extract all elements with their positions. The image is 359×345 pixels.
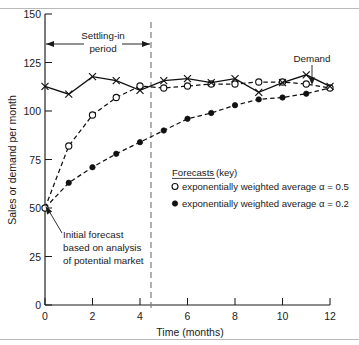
settling-in-annotation: Settling-in period: [46, 30, 150, 54]
settling-arrowhead-right-icon: [142, 41, 150, 47]
data-point: [280, 95, 285, 100]
y-tick-label-125: 125: [23, 57, 41, 69]
legend-filled-circle-icon: [172, 201, 177, 206]
data-point: [66, 180, 71, 185]
data-point: [232, 81, 238, 87]
data-point: [232, 103, 237, 108]
x-axis-ticks: 0 2 4 6 8 10 12: [42, 298, 336, 322]
data-point: [184, 83, 190, 89]
initial-forecast-label-line1: Initial forecast: [63, 229, 124, 240]
demand-callout-label: Demand: [293, 53, 330, 64]
x-tick-label-2: 2: [90, 310, 96, 322]
data-point: [89, 112, 95, 118]
x-axis-title: Time (months): [156, 326, 223, 338]
initial-forecast-arrowhead-icon: [46, 206, 53, 215]
data-point: [114, 151, 119, 156]
data-point: [90, 165, 95, 170]
y-tick-label-50: 50: [29, 202, 41, 214]
legend-heading-suffix: (key): [216, 167, 237, 178]
data-point: [209, 110, 214, 115]
x-tick-label-4: 4: [137, 310, 143, 322]
y-tick-label-150: 150: [23, 8, 41, 20]
initial-forecast-label-line2: based on analysis: [63, 242, 142, 253]
y-axis-title: Sales or demand per month: [6, 95, 18, 225]
data-point: [256, 97, 261, 102]
y-tick-label-100: 100: [23, 105, 41, 117]
x-tick-label-8: 8: [232, 310, 238, 322]
chart-canvas: 150 125 100 75 50 25 0 0 2 4 6 8 10 12 T…: [0, 0, 359, 345]
y-axis-ticks: 150 125 100 75 50 25 0: [23, 8, 52, 311]
x-tick-label-10: 10: [277, 310, 289, 322]
legend-item-alpha-0-5-label: exponentially weighted average α = 0.5: [182, 181, 349, 192]
initial-forecast-annotation: Initial forecast based on analysis of po…: [46, 206, 144, 266]
data-point: [161, 128, 166, 133]
demand-callout-annotation: Demand: [293, 53, 330, 85]
x-tick-label-6: 6: [185, 310, 191, 322]
data-point: [137, 140, 142, 145]
legend: Forecasts (key) exponentially weighted a…: [172, 167, 349, 209]
initial-forecast-leader-line: [49, 211, 62, 233]
x-tick-label-12: 12: [324, 310, 336, 322]
legend-item-alpha-0-2-label: exponentially weighted average α = 0.2: [182, 198, 349, 209]
y-tick-label-75: 75: [29, 154, 41, 166]
initial-forecast-label-line3: of potential market: [63, 255, 144, 266]
y-tick-label-25: 25: [29, 251, 41, 263]
x-tick-label-0: 0: [42, 310, 48, 322]
legend-heading: Forecasts: [172, 167, 214, 178]
data-point: [304, 91, 309, 96]
data-point: [185, 116, 190, 121]
data-point: [303, 81, 309, 87]
legend-open-circle-icon: [172, 184, 178, 190]
data-point: [256, 79, 262, 85]
settling-arrowhead-left-icon: [46, 41, 54, 47]
legend-item-alpha-0-5[interactable]: exponentially weighted average α = 0.5: [172, 181, 349, 192]
settling-in-label-line2: period: [89, 43, 116, 54]
y-tick-label-0: 0: [35, 299, 41, 311]
data-point: [161, 85, 167, 91]
data-point: [113, 94, 119, 100]
settling-in-label-line1: Settling-in: [81, 30, 125, 41]
legend-item-alpha-0-2[interactable]: exponentially weighted average α = 0.2: [172, 198, 349, 209]
data-point: [66, 143, 72, 149]
figure-container: 150 125 100 75 50 25 0 0 2 4 6 8 10 12 T…: [0, 0, 359, 345]
